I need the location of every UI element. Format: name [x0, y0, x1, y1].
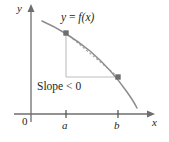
- x-axis-label: x: [152, 117, 157, 128]
- point-marker-a: [63, 30, 68, 35]
- point-marker-b: [115, 74, 120, 79]
- function-label-argument: (x): [82, 11, 95, 23]
- tick-label-b: b: [114, 120, 120, 131]
- function-curve: [42, 21, 137, 108]
- origin-label: 0: [22, 116, 28, 127]
- slope-annotation: Slope < 0: [37, 81, 81, 93]
- function-label: y = f(x): [61, 12, 94, 24]
- function-slope-figure: y x 0 a b y = f(x) Slope < 0: [0, 0, 169, 142]
- tick-label-a: a: [62, 120, 68, 131]
- function-label-equals: =: [66, 11, 78, 23]
- y-axis-label: y: [17, 3, 22, 14]
- y-axis-arrowhead: [28, 4, 35, 12]
